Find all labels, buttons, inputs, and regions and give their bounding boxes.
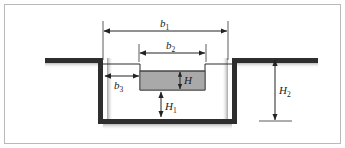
b1-subscript: 1 [166,23,170,32]
H1-label: H1 [164,100,177,115]
water-block [140,71,205,90]
dimension-H1: H1 [161,92,177,117]
H-symbol: H [183,74,193,86]
b3-subscript: 3 [120,85,124,94]
H2-subscript: 2 [287,90,291,99]
figure-container: b1 b2 b3 H [0,0,345,148]
H-label: H [183,74,193,86]
channel-cross-section-diagram: b1 b2 b3 H [0,0,345,148]
channel-floor [98,119,237,124]
dimension-H2: H2 [259,60,292,121]
b3-label: b3 [114,79,124,94]
water-fill [140,71,205,90]
b2-label: b2 [166,39,176,54]
left-channel-wall [98,58,103,120]
H1-subscript: 1 [173,106,177,115]
left-ground-surface [45,58,103,63]
b2-subscript: 2 [172,45,176,54]
b1-label: b1 [160,17,170,32]
H2-label: H2 [278,84,291,99]
dimension-b2: b2 [139,39,206,62]
right-channel-wall [232,58,237,120]
